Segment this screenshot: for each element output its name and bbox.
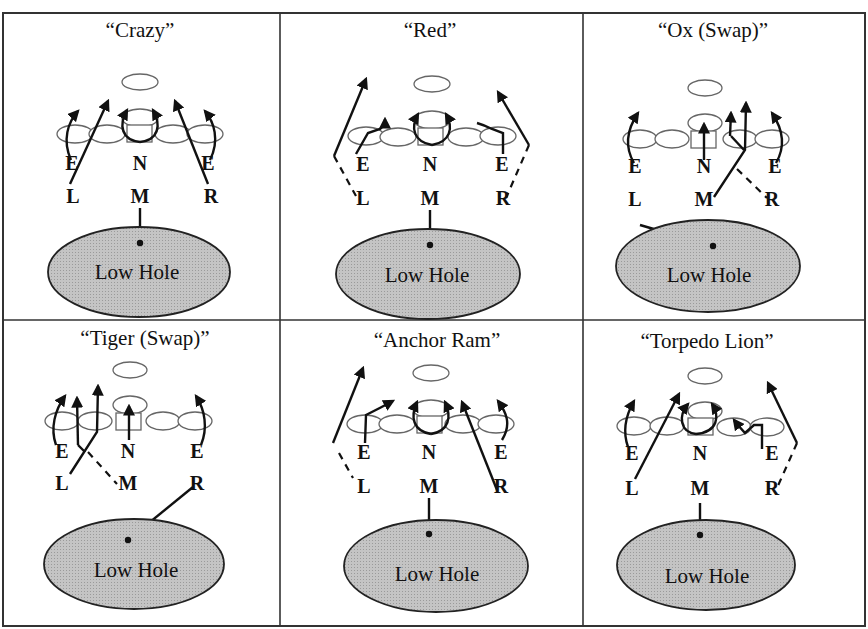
offense-formation bbox=[57, 74, 223, 143]
m-label: M bbox=[421, 187, 440, 209]
n-label: N bbox=[121, 440, 136, 462]
m-label: M bbox=[695, 188, 714, 210]
low-hole-label: Low Hole bbox=[665, 564, 750, 588]
panel-title: “Ox (Swap)” bbox=[658, 18, 768, 42]
low-hole-label: Low Hole bbox=[385, 263, 470, 287]
l-label: L bbox=[66, 185, 79, 207]
panel-title: “Crazy” bbox=[106, 18, 175, 42]
e-right-label: E bbox=[201, 152, 214, 174]
e-left-label: E bbox=[357, 441, 370, 463]
r-label: R bbox=[765, 188, 780, 210]
offense-formation bbox=[623, 80, 789, 148]
n-label: N bbox=[133, 152, 148, 174]
n-label: N bbox=[423, 153, 438, 175]
e-right-label: E bbox=[768, 155, 781, 177]
e-right-label: E bbox=[494, 441, 507, 463]
panel-title: “Tiger (Swap)” bbox=[80, 326, 209, 350]
e-right-label: E bbox=[765, 442, 778, 464]
panel-title: “Anchor Ram” bbox=[374, 328, 501, 352]
m-label: M bbox=[420, 475, 439, 497]
panel-ox-swap: “Ox (Swap)” E N E L M R Low Hole bbox=[616, 18, 800, 312]
r-label: R bbox=[494, 475, 509, 497]
routes bbox=[53, 386, 204, 540]
n-label: N bbox=[697, 155, 712, 177]
low-hole-label: Low Hole bbox=[94, 558, 179, 582]
r-label: R bbox=[765, 477, 780, 499]
panel-tiger-swap: “Tiger (Swap)” E N E L M R Low Hole bbox=[44, 326, 224, 609]
e-left-label: E bbox=[628, 155, 641, 177]
e-right-label: E bbox=[190, 440, 203, 462]
panel-title: “Red” bbox=[404, 18, 456, 42]
e-left-label: E bbox=[65, 152, 78, 174]
r-label: R bbox=[204, 185, 219, 207]
panel-title: “Torpedo Lion” bbox=[640, 329, 773, 353]
l-label: L bbox=[625, 477, 638, 499]
l-label: L bbox=[357, 475, 370, 497]
e-left-label: E bbox=[356, 153, 369, 175]
e-left-label: E bbox=[625, 442, 638, 464]
m-label: M bbox=[119, 472, 138, 494]
n-label: N bbox=[422, 441, 437, 463]
low-hole-label: Low Hole bbox=[395, 562, 480, 586]
m-label: M bbox=[691, 477, 710, 499]
offense-formation bbox=[348, 76, 516, 146]
panel-torpedo-lion: “Torpedo Lion” E N E L M R Low Hole bbox=[617, 329, 797, 610]
panel-crazy: “Crazy” E N E L M R Low Hole bbox=[48, 18, 230, 317]
l-label: L bbox=[55, 472, 68, 494]
defensive-fronts-diagram: “Crazy” E N E L M R Low Hole “ bbox=[0, 0, 868, 629]
e-left-label: E bbox=[55, 440, 68, 462]
m-label: M bbox=[131, 185, 150, 207]
low-hole-label: Low Hole bbox=[667, 263, 752, 287]
n-label: N bbox=[693, 442, 708, 464]
panel-red: “Red” E N E L M R Low Hole bbox=[334, 18, 529, 319]
r-label: R bbox=[496, 187, 511, 209]
panel-anchor-ram: “Anchor Ram” E N E L M R Low Hole bbox=[333, 328, 528, 612]
l-label: L bbox=[356, 187, 369, 209]
e-right-label: E bbox=[495, 153, 508, 175]
l-label: L bbox=[628, 188, 641, 210]
r-label: R bbox=[190, 472, 205, 494]
offense-formation bbox=[347, 365, 514, 433]
low-hole-label: Low Hole bbox=[95, 260, 180, 284]
